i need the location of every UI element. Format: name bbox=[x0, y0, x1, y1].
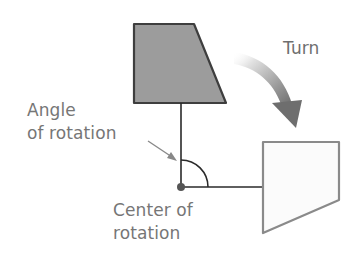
rotated-shape bbox=[263, 142, 339, 233]
center-label-line1: Center of bbox=[113, 199, 193, 222]
center-of-rotation-dot bbox=[177, 183, 185, 191]
center-label-line2: rotation bbox=[113, 222, 193, 245]
angle-label-line1: Angle bbox=[27, 99, 117, 122]
turn-label-text: Turn bbox=[283, 37, 319, 60]
angle-arc bbox=[181, 160, 208, 187]
turn-arrow-icon bbox=[234, 52, 302, 128]
turn-label: Turn bbox=[283, 37, 319, 60]
original-shape bbox=[134, 24, 226, 103]
angle-pointer-arrow bbox=[148, 141, 177, 161]
angle-of-rotation-label: Angle of rotation bbox=[27, 99, 117, 145]
center-of-rotation-label: Center of rotation bbox=[113, 199, 193, 245]
angle-label-line2: of rotation bbox=[27, 122, 117, 145]
